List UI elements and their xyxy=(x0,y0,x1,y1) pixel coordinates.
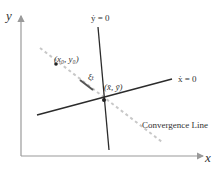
ydot-zero-label: ẏ = 0 xyxy=(91,13,110,23)
xi-vector-label: ξₜ xyxy=(88,72,95,82)
initial-point-label: (x₀, y₀) xyxy=(54,54,79,64)
phase-diagram: y x ẏ = 0 ẋ = 0 Convergence Line (x₀, y₀… xyxy=(0,0,220,169)
x-axis-label: x xyxy=(204,150,211,165)
steady-state-label: (x̄, ȳ) xyxy=(104,82,122,92)
xdot-zero-label: ẋ = 0 xyxy=(178,74,197,84)
convergence-line-label: Convergence Line xyxy=(142,120,208,130)
y-axis-label: y xyxy=(4,8,12,23)
steady-state-point xyxy=(102,98,106,102)
